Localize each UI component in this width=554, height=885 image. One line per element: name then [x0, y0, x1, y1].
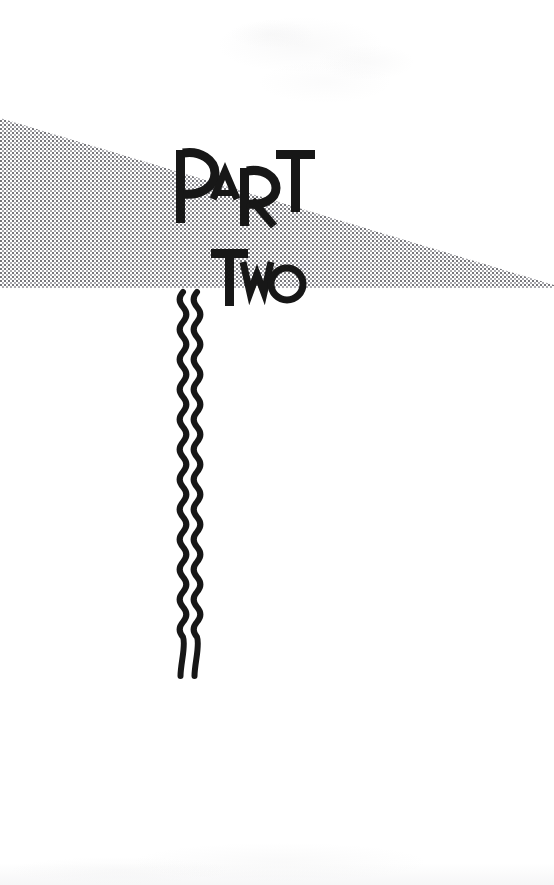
- double-wavy-vertical-rule: [180, 292, 201, 676]
- letter-p: [176, 150, 215, 223]
- letter-t-2: [211, 249, 248, 306]
- letter-r: [240, 168, 276, 226]
- letter-w: [243, 262, 271, 293]
- wavy-line-right: [194, 292, 201, 676]
- wavy-line-left: [180, 292, 187, 676]
- letter-t: [276, 150, 315, 212]
- part-divider-page: PART TWO PART TWO: [0, 0, 554, 885]
- artwork-layer: [0, 0, 554, 885]
- heading-line-two: [211, 249, 303, 306]
- letter-o: [271, 268, 303, 300]
- heading-line-part: [176, 150, 315, 226]
